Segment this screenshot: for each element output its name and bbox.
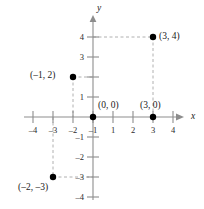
x-tick-label-neg3: –3 [46,126,60,135]
point-neg1-2 [70,74,76,80]
point-0-0 [90,114,96,120]
point-3-4 [150,34,156,40]
x-tick-label-neg1: –1 [86,126,100,135]
point-label-neg1-2: (–1, 2) [30,71,55,81]
x-tick-label-2: 2 [128,126,138,135]
point-label-3-4: (3, 4) [159,32,180,42]
x-tick-label-1: 1 [108,126,118,135]
point-label-origin: (0, 0) [98,101,119,111]
coordinate-plane-figure: x y –4 –3 –2 –1 1 2 3 4 4 3 1 –1 –2 –3 –… [0,0,204,209]
point-label-3-0: (3, 0) [140,101,161,111]
y-tick-label-neg4: –4 [70,193,84,202]
y-axis-arrow [90,15,97,22]
y-tick-label-neg3: –3 [70,173,84,182]
x-tick-label-3: 3 [148,126,158,135]
point-label-neg2-neg3: (–2, –3) [18,183,48,193]
y-tick-label-neg1: –1 [70,133,84,142]
y-axis-label: y [97,4,101,14]
point-3-0 [150,114,156,120]
y-tick-label-neg2: –2 [70,153,84,162]
point-neg2-neg3 [50,174,56,180]
y-tick-label-4: 4 [74,33,84,42]
y-tick-label-1: 1 [74,93,84,102]
x-axis-label: x [191,112,195,122]
y-tick-label-3: 3 [74,53,84,62]
x-axis-arrow [176,114,184,121]
x-tick-label-4: 4 [168,126,178,135]
x-tick-label-neg4: –4 [26,126,40,135]
